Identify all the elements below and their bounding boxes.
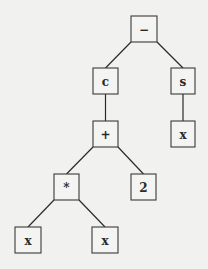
node-label: x <box>24 234 32 248</box>
tree-node: x <box>15 227 41 253</box>
tree-node: s <box>171 68 195 94</box>
tree-edge <box>67 147 94 174</box>
node-label: x <box>101 234 109 248</box>
tree-node: 2 <box>131 174 156 200</box>
tree-node: − <box>131 16 157 42</box>
tree-edge <box>28 200 54 227</box>
tree-node: x <box>171 121 195 147</box>
node-label: x <box>179 128 187 142</box>
tree-edge <box>106 42 132 68</box>
tree-node: c <box>93 68 118 94</box>
tree-edge <box>118 147 144 174</box>
expression-tree-diagram: −cs+x*2xx <box>0 0 208 269</box>
node-label: 2 <box>139 181 147 195</box>
tree-node: * <box>54 174 79 200</box>
node-label: + <box>100 128 110 142</box>
tree-edge <box>79 200 105 227</box>
node-label: c <box>102 75 109 89</box>
tree-node: + <box>93 121 118 147</box>
node-label: * <box>63 181 70 195</box>
node-label: s <box>180 75 187 89</box>
tree-nodes: −cs+x*2xx <box>15 16 195 253</box>
node-label: − <box>139 23 149 37</box>
tree-node: x <box>92 227 118 253</box>
tree-edge <box>157 42 183 68</box>
